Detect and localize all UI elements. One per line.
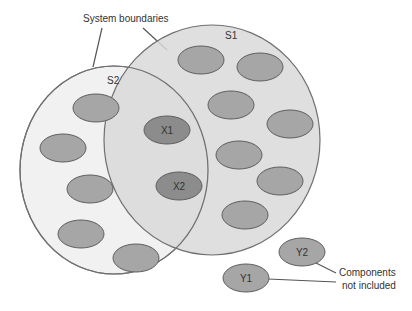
component-s1-1 [178, 46, 224, 74]
component-x1-label: X1 [161, 125, 174, 136]
system-s2-label: S2 [107, 75, 120, 86]
component-y2-label: Y2 [296, 247, 309, 258]
component-x2-label: X2 [173, 181, 186, 192]
component-s2-5 [113, 244, 159, 272]
system-boundaries-label: System boundaries [83, 13, 169, 24]
component-s2-4 [58, 220, 104, 248]
component-s1-6 [257, 167, 303, 195]
component-y1-label: Y1 [240, 273, 253, 284]
component-s1-2 [237, 53, 283, 81]
leader-line-y1 [268, 279, 336, 282]
component-s2-1 [73, 94, 119, 122]
components-not-included-line2: not included [342, 280, 396, 291]
component-s1-7 [222, 201, 268, 229]
component-s2-2 [40, 134, 86, 162]
leader-line-y2 [316, 263, 336, 273]
system-boundary-diagram: S1 S2 System boundaries X1 X2 Y2 Y1 Comp… [0, 0, 412, 311]
system-s1-label: S1 [225, 30, 238, 41]
components-not-included-line1: Components [339, 267, 396, 278]
component-s1-5 [216, 141, 262, 169]
component-s1-3 [208, 91, 254, 119]
leader-line-s2 [93, 28, 102, 67]
component-s2-3 [67, 175, 113, 203]
component-s1-4 [267, 110, 313, 138]
